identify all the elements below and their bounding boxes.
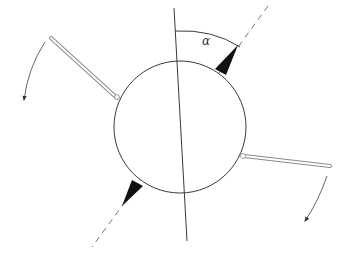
upper-wedge-marker <box>215 45 238 75</box>
right-rotation-arrow-icon <box>305 176 327 221</box>
angle-alpha-label: α <box>202 34 210 48</box>
left-rod <box>51 38 120 100</box>
lower-wedge-marker <box>122 180 143 206</box>
right-rod <box>241 154 331 167</box>
body-circle <box>114 61 246 193</box>
rotating-body-diagram: α <box>0 0 350 253</box>
left-rotation-arrow-icon <box>24 42 45 100</box>
